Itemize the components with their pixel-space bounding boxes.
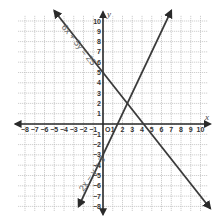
x-tick-label: 4 — [140, 126, 144, 133]
y-tick-label: 4 — [97, 79, 101, 86]
x-tick-label: 2 — [121, 126, 125, 133]
y-tick-label: 10 — [93, 18, 101, 25]
y-tick-label: 9 — [97, 28, 101, 35]
grid-lines — [18, 16, 207, 212]
y-tick-label: −2 — [93, 141, 101, 148]
x-tick-label: −6 — [41, 126, 49, 133]
y-tick-label: −6 — [93, 182, 101, 189]
x-tick-label: 10 — [197, 126, 205, 133]
y-tick-label: 3 — [97, 90, 101, 97]
x-axis-label: x — [204, 112, 209, 122]
x-tick-label: 6 — [160, 126, 164, 133]
y-tick-label: 8 — [97, 38, 101, 45]
y-tick-label: −1 — [93, 131, 101, 138]
x-tick-label: 7 — [169, 126, 173, 133]
x-tick-label: 8 — [179, 126, 183, 133]
y-tick-label: 7 — [97, 48, 101, 55]
origin-label: O — [105, 126, 111, 133]
x-tick-label: 3 — [130, 126, 134, 133]
x-tick-label: −4 — [60, 126, 68, 133]
y-tick-label: −8 — [93, 203, 101, 210]
coordinate-plane: −8−7−6−5−4−3−2−112345678910−8−7−6−5−4−3−… — [0, 0, 224, 219]
y-axis-label: y — [106, 9, 111, 19]
x-tick-label: −5 — [50, 126, 58, 133]
x-tick-label: −7 — [31, 126, 39, 133]
equation-label-1: 6x + 5y = 25 — [60, 22, 99, 67]
x-tick-label: −3 — [70, 126, 78, 133]
x-tick-label: 9 — [189, 126, 193, 133]
x-tick-label: −8 — [21, 126, 29, 133]
y-tick-label: −7 — [93, 193, 101, 200]
y-tick-label: 1 — [97, 110, 101, 117]
y-tick-label: 2 — [97, 100, 101, 107]
x-tick-label: −2 — [80, 126, 88, 133]
